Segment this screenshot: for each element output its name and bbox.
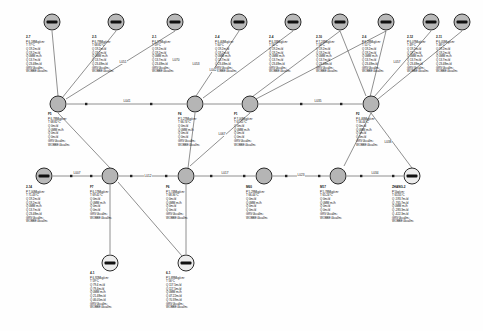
node-2-4[interactable] [285, 14, 302, 31]
node-f7[interactable] [102, 168, 119, 185]
node-wobbe-value: WOBBE 0kcal/m³ [234, 144, 256, 148]
node-label-block: 6-1P 5.89Mkg/cm²T 56°CQ 117.5m³/dQ 117.5… [166, 272, 188, 310]
link-label: L023 [297, 173, 305, 177]
node-label-block: M17P 5.78Mkg/cm²T 65.24°CQ 0m³/dQ 0MM m³… [320, 186, 342, 220]
node-6-1[interactable] [178, 255, 195, 272]
link-label: L053 [192, 62, 200, 66]
node-zhang-2[interactable] [404, 168, 421, 185]
link-label: L041 [123, 99, 131, 103]
node-wobbe-value: WOBBE 0kcal/m³ [246, 217, 268, 221]
node-2-6[interactable] [378, 14, 395, 31]
node-bar-icon [47, 21, 58, 23]
node-label-block: ZHANG-2P 5kg/cm²T 65.05°CQ -593.7m³/dQ -… [392, 186, 414, 224]
node-2-12[interactable] [423, 14, 440, 31]
node-symbol-jct [330, 168, 347, 185]
node-label-block: M60P 5.29Mkg/cm²T 66.44°CQ 0m³/dQ 0MM m³… [246, 186, 268, 220]
node-label-block: 2-12P 6.07Mkg/cm²T 49°CQ 19.2m³/dQ 19.2m… [407, 36, 429, 74]
node-label-block: F7P 6.17Mkg/cm²T 69.41°CQ 0m³/dQ 0MM m³/… [90, 186, 112, 220]
node-symbol-src [378, 14, 395, 31]
node-symbol-src [231, 14, 248, 31]
node-wobbe-value: WOBBE 0kcal/m³ [166, 306, 188, 310]
node-f2[interactable] [363, 96, 380, 113]
node-2-10[interactable] [332, 14, 349, 31]
node-f4[interactable] [187, 96, 204, 113]
node-label-block: F2P 6.46Mkg/cm²T 56.44°CQ 0m³/dQ 0MM m³/… [356, 113, 378, 147]
node-bar-icon [39, 175, 50, 177]
link-label: L035 [314, 99, 322, 103]
node-bar-icon [234, 21, 245, 23]
node-label-block: 2-7P 6.18Mkg/cm²T 77°CQ 19.2m³/dQ 19.2m³… [26, 36, 48, 74]
diagram-canvas: 2-7P 6.18Mkg/cm²T 77°CQ 19.2m³/dQ 19.2m³… [0, 0, 483, 331]
node-2-1[interactable] [167, 14, 184, 31]
node-2-11[interactable] [454, 14, 471, 31]
node-label-block: F5P 6.78Mkg/cm²T 68.82°CQ 0m³/dQ 0MM m³/… [48, 113, 70, 147]
node-symbol-jct [363, 96, 380, 113]
node-2-7[interactable] [44, 14, 61, 31]
node-2-4[interactable] [231, 14, 248, 31]
node-symbol-src [454, 14, 471, 31]
node-symbol-src [167, 14, 184, 31]
node-symbol-jct [242, 96, 259, 113]
link-label: L007 [73, 171, 81, 175]
node-wobbe-value: WOBBE 0kcal/m³ [90, 306, 112, 310]
link-label: L067 [218, 132, 226, 136]
node-wobbe-value: WOBBE 0kcal/m³ [320, 217, 342, 221]
node-wobbe-value: WOBBE 0kcal/m³ [90, 217, 112, 221]
node-label-block: 4-1P 6.92Mkg/cm²T 59°CQ 79.4 m³/dQ 79.4m… [90, 272, 112, 310]
node-symbol-jct [102, 168, 119, 185]
node-wobbe-value: WOBBE 0kcal/m³ [407, 70, 429, 74]
node-wobbe-value: WOBBE 0kcal/m³ [392, 220, 414, 224]
node-label-block: 2-4P 6.33Mkg/cm²T 56°CQ 19.2m³/dQ 19.2m³… [269, 36, 291, 74]
node-label-block: 2-11P 6.05Mkg/cm²T 48°CQ 19.2m³/dQ 19.2m… [436, 36, 458, 74]
node-bar-icon [288, 21, 299, 23]
node-bar-icon [181, 262, 192, 264]
node-label-block: 2-10P 7.24Mkg/cm²T 58°CQ 19.2m³/dQ 19.2m… [316, 36, 338, 74]
node-symbol-src [44, 14, 61, 31]
node-2-5[interactable] [108, 14, 125, 31]
node-2-14[interactable] [36, 168, 53, 185]
link-label: L017 [221, 171, 229, 175]
node-symbol-jct [256, 168, 273, 185]
node-label-block: 2-4P 6.40Mkg/cm²T 60°CQ 19.2m³/dQ 19.2m³… [215, 36, 237, 74]
node-symbol-src [332, 14, 349, 31]
node-f1[interactable] [242, 96, 259, 113]
node-symbol-src [36, 168, 53, 185]
node-bar-icon [426, 21, 437, 23]
node-4-1[interactable] [102, 255, 119, 272]
node-wobbe-value: WOBBE 0kcal/m³ [362, 70, 384, 74]
node-bar-icon [381, 21, 392, 23]
node-f5[interactable] [50, 96, 67, 113]
node-wobbe-value: WOBBE 0kcal/m³ [316, 70, 338, 74]
node-symbol-sink [404, 168, 421, 185]
link-label: L038 [384, 140, 392, 144]
node-label-block: 2-6P 6.28Mkg/cm²T 51°CQ 19.2m³/dQ 19.2m³… [362, 36, 384, 74]
node-symbol-src [108, 14, 125, 31]
node-bar-icon [111, 21, 122, 23]
node-wobbe-value: WOBBE 0kcal/m³ [269, 70, 291, 74]
node-label-block: 2-1P 6.37Mkg/cm²T 59°CQ 19.2m³/dQ 19.2m³… [152, 36, 174, 74]
node-wobbe-value: WOBBE 0kcal/m³ [215, 70, 237, 74]
node-f6[interactable] [178, 168, 195, 185]
node-label-block: 2-5P 6.79Mkg/cm²T 68.82°CQ 19.2m³/dQ 19.… [92, 36, 114, 74]
link-label: L070 [172, 58, 180, 62]
node-wobbe-value: WOBBE 0kcal/m³ [152, 70, 174, 74]
node-symbol-src [285, 14, 302, 31]
node-symbol-jct [187, 96, 204, 113]
link-label: L042 [209, 68, 217, 72]
node-wobbe-value: WOBBE 0kcal/m³ [26, 70, 48, 74]
node-m17[interactable] [330, 168, 347, 185]
node-label-block: F4P 5.27Mkg/cm²T 66.74°CQ 0m³/dQ 0MM m³/… [178, 113, 200, 147]
node-symbol-jct [50, 96, 67, 113]
link-label: L051 [119, 60, 127, 64]
node-wobbe-value: WOBBE 0kcal/m³ [178, 144, 200, 148]
link-label: L057 [393, 60, 401, 64]
link-label: L034 [371, 171, 379, 175]
node-bar-icon [170, 21, 181, 23]
node-wobbe-value: WOBBE 0kcal/m³ [26, 220, 48, 224]
node-wobbe-value: WOBBE 0kcal/m³ [436, 70, 458, 74]
node-m60[interactable] [256, 168, 273, 185]
node-wobbe-value: WOBBE 0kcal/m³ [356, 144, 378, 148]
node-wobbe-value: WOBBE 0kcal/m³ [92, 70, 114, 74]
node-bar-icon [105, 262, 116, 264]
node-symbol-jct [178, 168, 195, 185]
